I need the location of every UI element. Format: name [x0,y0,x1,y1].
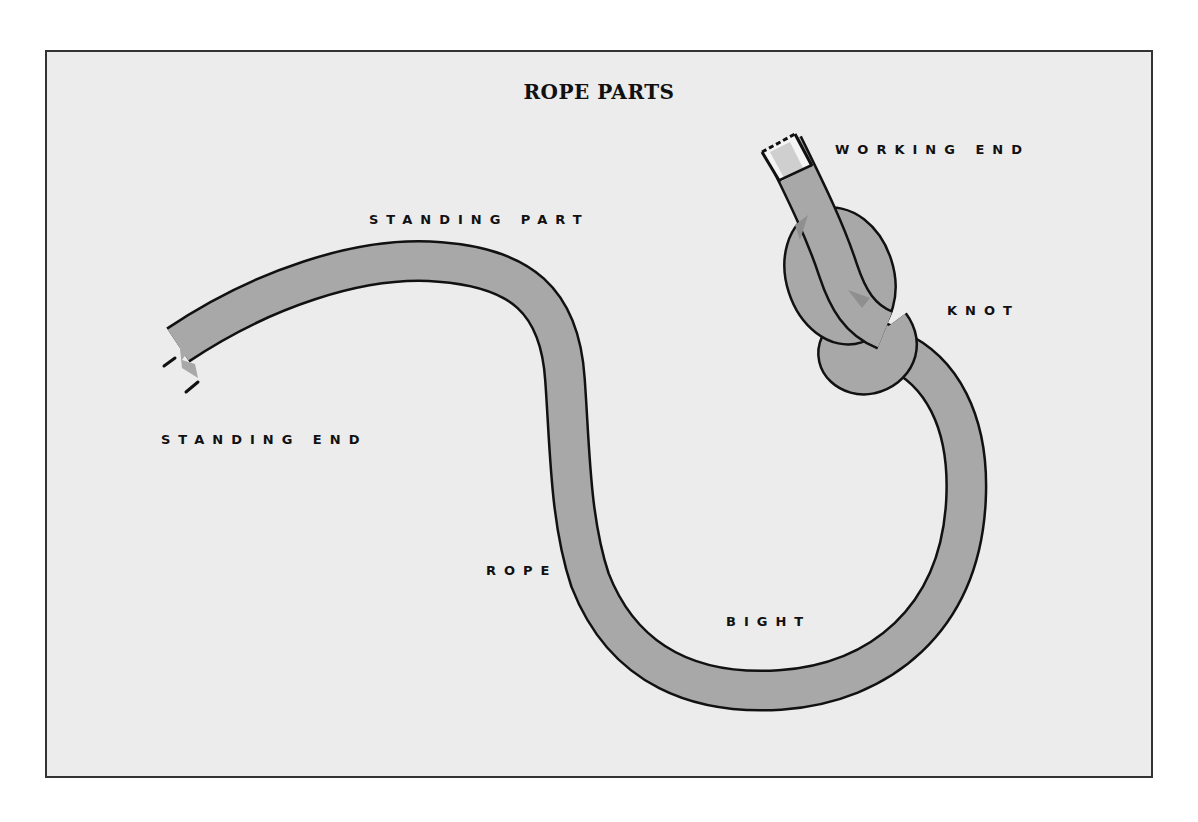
label-working-end: WORKING END [835,142,1030,157]
label-rope: ROPE [486,563,557,578]
label-standing-part: STANDING PART [369,212,590,227]
rope-diagram [0,0,1198,822]
label-bight: BIGHT [726,614,811,629]
diagram-title: ROPE PARTS [0,80,1198,104]
label-knot: KNOT [947,303,1020,318]
label-standing-end: STANDING END [161,432,367,447]
